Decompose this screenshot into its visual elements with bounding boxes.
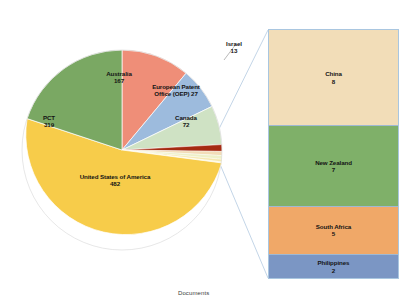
callout-panel: China 8 New Zealand 7 South Africa 5 Phi… [268, 29, 399, 279]
pie-label-israel-name: Israel [226, 40, 242, 47]
pie-label-israel-value: 13 [214, 47, 254, 54]
callout-label-china-name: China [325, 70, 342, 77]
callout-label-china: China 8 [325, 70, 342, 85]
callout-label-south-africa-name: South Africa [316, 223, 351, 230]
chart-caption: Documents [178, 290, 209, 296]
chart-canvas: Australia 167 European Patent Office (OE… [0, 0, 408, 306]
callout-segment-philippines: Philippines 2 [269, 255, 398, 278]
callout-label-new-zealand-value: 7 [315, 166, 352, 173]
callout-label-philippines-value: 2 [318, 267, 350, 274]
callout-label-south-africa: South Africa 5 [316, 223, 351, 238]
callout-label-new-zealand-name: New Zealand [315, 159, 352, 166]
callout-segment-south-africa: South Africa 5 [269, 207, 398, 255]
callout-label-china-value: 8 [325, 78, 342, 85]
callout-label-philippines: Philippines 2 [318, 259, 350, 274]
callout-segment-new-zealand: New Zealand 7 [269, 126, 398, 207]
pie-label-israel: Israel 13 [214, 40, 254, 55]
callout-label-philippines-name: Philippines [318, 259, 350, 266]
callout-label-south-africa-value: 5 [316, 230, 351, 237]
callout-label-new-zealand: New Zealand 7 [315, 159, 352, 174]
callout-segment-china: China 8 [269, 30, 398, 126]
